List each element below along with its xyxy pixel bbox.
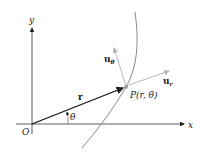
x-axis-label: x [188, 120, 193, 130]
theta-label: θ [70, 112, 76, 122]
u-theta-vector [114, 48, 126, 86]
angle-arc [67, 112, 68, 124]
vector-r-label: r [78, 92, 83, 102]
origin-label: O [22, 127, 30, 137]
u-theta-label: uθ [104, 54, 115, 65]
point-p [124, 85, 128, 89]
u-r-label: ur [163, 76, 174, 87]
point-p-label: P(r, θ) [129, 90, 158, 100]
curve [82, 12, 137, 148]
y-axis-label: y [28, 15, 35, 25]
polar-diagram: y x O r θ P(r, θ) uθ ur [0, 0, 205, 155]
